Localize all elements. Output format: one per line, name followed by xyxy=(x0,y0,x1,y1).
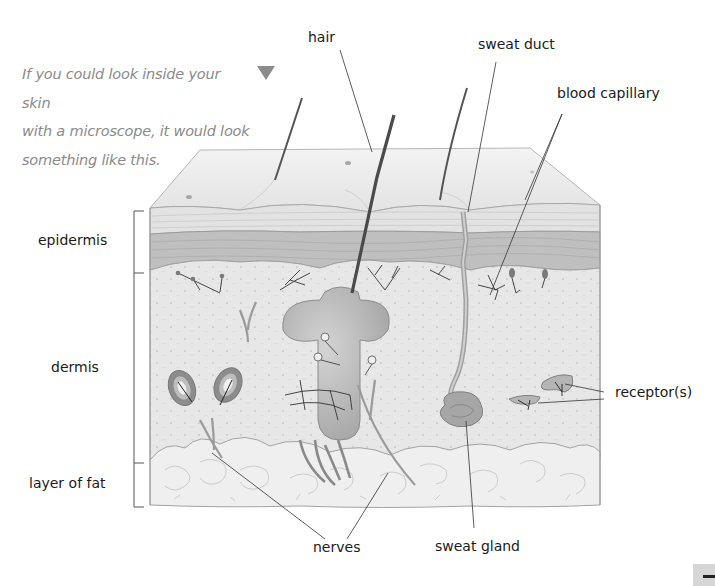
label-dermis: dermis xyxy=(51,359,99,375)
label-epidermis: epidermis xyxy=(38,232,107,248)
page-corner-tab xyxy=(693,564,715,586)
label-nerves: nerves xyxy=(313,539,360,555)
label-receptors: receptor(s) xyxy=(615,384,692,400)
label-hair: hair xyxy=(308,29,335,45)
label-sweat-duct: sweat duct xyxy=(478,36,555,52)
label-sweat-gland: sweat gland xyxy=(435,538,520,554)
label-layer-of-fat: layer of fat xyxy=(29,475,106,491)
label-blood-capillary: blood capillary xyxy=(557,85,660,101)
layer-brackets xyxy=(134,211,144,507)
